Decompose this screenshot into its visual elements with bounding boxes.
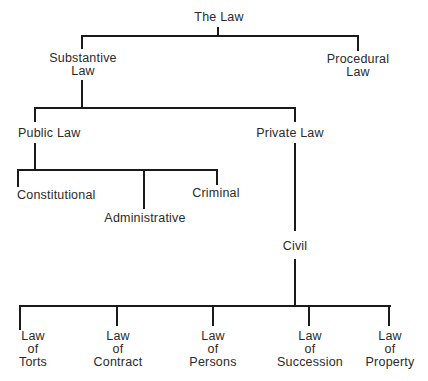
node-procedural-law: Procedural Law: [327, 53, 389, 79]
node-administrative: Administrative: [104, 212, 185, 225]
node-civil: Civil: [283, 240, 308, 253]
node-substantive-law: Substantive Law: [49, 52, 117, 78]
node-private-law: Private Law: [256, 127, 324, 140]
node-label: Law: [49, 65, 117, 78]
node-criminal: Criminal: [192, 187, 239, 200]
node-public-law: Public Law: [18, 127, 80, 140]
node-label: Property: [366, 356, 415, 369]
node-label: Constitutional: [17, 189, 96, 202]
node-label: Private Law: [256, 127, 324, 140]
node-label: Succession: [277, 356, 343, 369]
node-label: Torts: [19, 356, 47, 369]
node-law-of-property: Law of Property: [366, 330, 415, 369]
node-law-of-succession: Law of Succession: [277, 330, 343, 369]
node-law-of-contract: Law of Contract: [94, 330, 143, 369]
node-the-law: The Law: [194, 11, 243, 24]
node-label: Contract: [94, 356, 143, 369]
node-law-of-torts: Law of Torts: [19, 330, 47, 369]
node-label: Criminal: [192, 187, 239, 200]
node-constitutional: Constitutional: [17, 189, 96, 202]
node-label: Law: [327, 66, 389, 79]
node-label: Civil: [283, 240, 308, 253]
node-label: The Law: [194, 11, 243, 24]
node-label: Persons: [189, 356, 236, 369]
node-law-of-persons: Law of Persons: [189, 330, 236, 369]
node-label: Public Law: [18, 127, 80, 140]
node-label: Administrative: [104, 212, 185, 225]
